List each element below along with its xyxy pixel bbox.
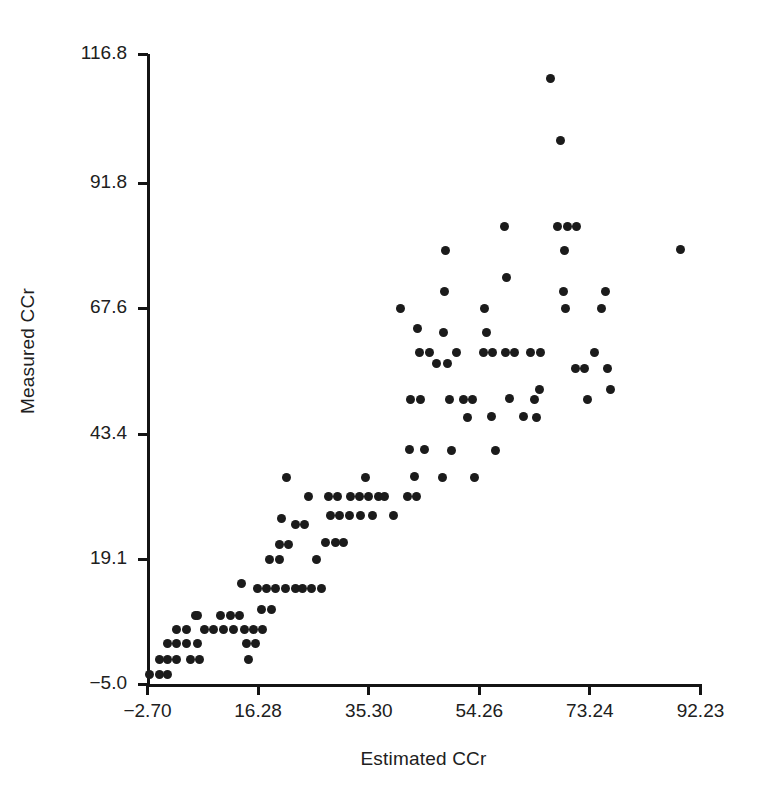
data-point (200, 625, 209, 634)
data-point (145, 670, 154, 679)
data-point (339, 538, 348, 547)
data-point (356, 511, 365, 520)
data-point (300, 520, 309, 529)
data-point (271, 584, 280, 593)
data-point (163, 655, 172, 664)
y-axis-tick: 19.1 (138, 558, 148, 561)
data-point (361, 473, 370, 482)
data-point (601, 287, 610, 296)
data-point (580, 364, 589, 373)
data-point (291, 520, 300, 529)
y-axis-tick-label: 116.8 (81, 42, 127, 64)
data-point (572, 222, 581, 231)
data-point (546, 74, 555, 83)
y-axis-title: Measured CCr (17, 261, 39, 441)
data-point (235, 611, 244, 620)
y-axis-tick-label: 91.8 (90, 171, 127, 193)
x-axis-tick: −2.70 (146, 684, 149, 695)
data-point (410, 472, 419, 481)
x-axis-line (147, 684, 701, 687)
data-point (163, 670, 172, 679)
y-axis-tick-label: 19.1 (90, 547, 127, 569)
data-point (482, 328, 491, 337)
data-point (219, 625, 228, 634)
data-point (317, 584, 326, 593)
data-point (603, 364, 612, 373)
data-point (380, 492, 389, 501)
data-point (459, 395, 468, 404)
data-point (193, 639, 202, 648)
data-point (277, 514, 286, 523)
data-point (403, 492, 412, 501)
data-point (172, 639, 181, 648)
data-point (526, 348, 535, 357)
data-point (275, 540, 284, 549)
x-axis-tick: 35.30 (367, 684, 370, 695)
data-point (368, 511, 377, 520)
data-point (491, 446, 500, 455)
data-point (209, 625, 218, 634)
data-point (237, 579, 246, 588)
data-point (182, 639, 191, 648)
x-axis-tick-label: 16.28 (234, 700, 282, 722)
data-point (432, 359, 441, 368)
data-point (425, 348, 434, 357)
data-point (505, 394, 514, 403)
data-point (324, 492, 333, 501)
data-point (335, 511, 344, 520)
data-point (307, 584, 316, 593)
data-point (282, 473, 291, 482)
data-point (163, 639, 172, 648)
data-point (193, 611, 202, 620)
scatter-plot-figure: Measured CCr Estimated CCr −5.019.143.46… (0, 0, 759, 801)
data-point (563, 222, 572, 231)
data-point (253, 584, 262, 593)
data-point (275, 555, 284, 564)
y-axis-tick: 67.6 (138, 307, 148, 310)
data-point (561, 304, 570, 313)
data-point (439, 328, 448, 337)
data-point (333, 492, 342, 501)
data-point (445, 395, 454, 404)
data-point (249, 625, 258, 634)
data-point (556, 136, 565, 145)
data-point (488, 348, 497, 357)
data-point (406, 395, 415, 404)
data-point (583, 395, 592, 404)
data-point (536, 348, 545, 357)
x-axis-tick-label: 92.23 (677, 700, 725, 722)
x-axis-tick: 73.24 (588, 684, 591, 695)
data-point (416, 395, 425, 404)
data-point (535, 385, 544, 394)
x-axis-title: Estimated CCr (147, 748, 700, 770)
data-point (597, 304, 606, 313)
data-point (321, 538, 330, 547)
data-point (500, 222, 509, 231)
data-point (265, 555, 274, 564)
data-point (501, 348, 510, 357)
data-point (438, 473, 447, 482)
data-point (559, 287, 568, 296)
data-point (226, 611, 235, 620)
data-point (172, 655, 181, 664)
x-axis-tick: 92.23 (699, 684, 702, 695)
data-point (242, 639, 251, 648)
data-point (257, 605, 266, 614)
plot-area: −5.019.143.467.691.8116.8 −2.7016.2835.3… (147, 54, 700, 686)
data-point (396, 304, 405, 313)
y-axis-tick-label: −5.0 (89, 672, 127, 694)
y-axis-line (147, 54, 150, 687)
data-point (312, 555, 321, 564)
data-point (519, 412, 528, 421)
data-point (267, 605, 276, 614)
data-point (487, 412, 496, 421)
y-axis-tick-label: 67.6 (90, 296, 127, 318)
data-point (530, 395, 539, 404)
data-point (441, 246, 450, 255)
data-point (443, 359, 452, 368)
data-point (463, 413, 472, 422)
data-point (479, 348, 488, 357)
data-point (553, 222, 562, 231)
data-point (172, 625, 181, 634)
data-point (240, 625, 249, 634)
